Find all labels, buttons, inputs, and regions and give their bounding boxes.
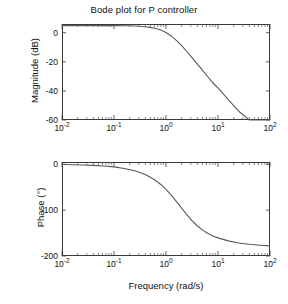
phase-x-axis-label: Frequency (rad/s) <box>62 280 270 291</box>
bode-plot-figure: Bode plot for P controller Magnitude (dB… <box>0 0 288 304</box>
phase-curve <box>62 165 270 246</box>
phase-plot-area <box>0 0 288 304</box>
